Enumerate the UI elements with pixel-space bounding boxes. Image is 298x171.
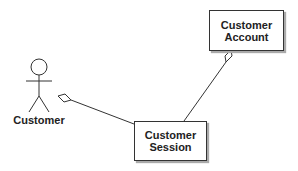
class-customer-session[interactable]: Customer Session — [134, 121, 207, 161]
actor-head — [31, 59, 47, 75]
actor-label: Customer — [9, 114, 69, 127]
association-actor-session — [58, 94, 134, 124]
actor-right-leg — [39, 96, 49, 112]
actor-left-leg — [29, 96, 39, 112]
actor-figure — [26, 59, 52, 112]
class-name-line2: Account — [225, 31, 269, 43]
class-name-line1: Customer — [145, 129, 196, 141]
association-session-account — [184, 50, 232, 121]
aggregation-diamond-icon — [225, 50, 232, 62]
class-customer-account[interactable]: Customer Account — [209, 10, 284, 51]
class-name-line2: Session — [149, 141, 191, 153]
aggregation-diamond-icon — [58, 94, 71, 102]
class-name-line1: Customer — [221, 19, 272, 31]
